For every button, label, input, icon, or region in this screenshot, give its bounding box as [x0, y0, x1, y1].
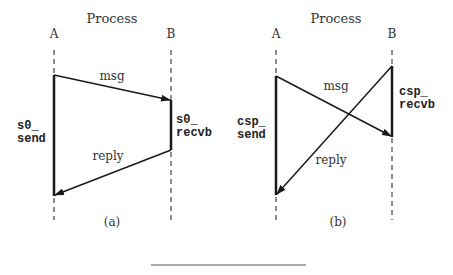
panel-a-recv-label-line2: recvb: [176, 126, 212, 140]
panel-a-process-b-label: B: [167, 27, 176, 41]
figure-canvas: Process A B msg reply s0_ send s0_ recvb…: [0, 0, 453, 275]
panel-b-title: Process: [310, 11, 361, 26]
panel-a-send-label-line1: s0_: [17, 119, 39, 133]
panel-b-process-b-label: B: [388, 27, 397, 41]
panel-a-caption: (a): [104, 215, 121, 229]
panel-b-process-a-label: A: [271, 27, 281, 41]
panel-b-recv-label-line2: recvb: [399, 98, 435, 112]
panel-a: Process A B msg reply s0_ send s0_ recvb…: [17, 11, 212, 229]
panel-a-process-a-label: A: [49, 27, 59, 41]
panel-b-send-label-line2: send: [237, 128, 266, 142]
panel-a-title: Process: [86, 11, 137, 26]
panel-a-send-label-line2: send: [17, 132, 46, 146]
panel-b-recv-label-line1: csp_: [399, 85, 429, 99]
panel-b: Process A B msg reply csp_ send csp_ rec…: [237, 11, 435, 229]
panel-a-msg-label: msg: [99, 69, 125, 83]
panel-a-recv-label-line1: s0_: [176, 113, 198, 127]
panel-a-reply-label: reply: [92, 149, 123, 163]
panel-b-send-label-line1: csp_: [237, 115, 267, 129]
panel-b-msg-label: msg: [323, 79, 349, 93]
panel-b-reply-label: reply: [315, 153, 346, 167]
panel-b-caption: (b): [329, 215, 346, 229]
